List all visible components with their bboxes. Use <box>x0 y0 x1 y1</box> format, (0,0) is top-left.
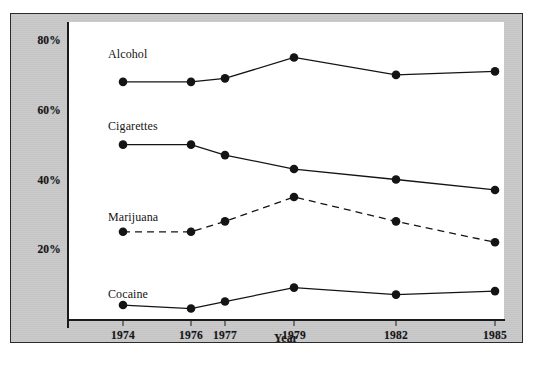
series-label-alcohol: Alcohol <box>108 47 147 62</box>
figure-caption <box>40 349 510 363</box>
data-point <box>187 78 196 87</box>
series-line-marijuana <box>123 197 495 242</box>
data-point <box>221 297 230 306</box>
data-point <box>290 283 299 292</box>
data-point <box>392 217 401 226</box>
data-point <box>119 228 128 237</box>
data-point <box>392 290 401 299</box>
data-point <box>392 71 401 80</box>
series-layer <box>68 22 504 319</box>
data-point <box>290 53 299 62</box>
data-point <box>119 140 128 149</box>
data-point <box>392 175 401 184</box>
y-tick-label: 60% <box>37 104 61 116</box>
data-point <box>221 217 230 226</box>
data-point <box>491 287 500 296</box>
data-point <box>119 301 128 310</box>
series-line-alcohol <box>123 57 495 81</box>
data-point <box>290 193 299 202</box>
y-tick-label: 40% <box>37 174 61 186</box>
figure-frame: 80%60%40%20% 197419761977197919821985 Al… <box>10 13 523 343</box>
data-point <box>187 140 196 149</box>
y-axis-line <box>67 22 69 328</box>
data-point <box>491 67 500 76</box>
data-point <box>187 304 196 313</box>
series-label-marijuana: Marijuana <box>108 210 158 225</box>
data-point <box>290 165 299 174</box>
data-point <box>491 238 500 247</box>
data-point <box>119 78 128 87</box>
x-axis-line <box>67 319 505 321</box>
x-axis-title: Year <box>68 332 504 344</box>
data-point <box>491 186 500 195</box>
series-line-cocaine <box>123 288 495 309</box>
plot-area: 80%60%40%20% 197419761977197919821985 Al… <box>68 22 504 319</box>
data-point <box>221 151 230 160</box>
data-point <box>187 228 196 237</box>
series-label-cocaine: Cocaine <box>108 287 148 302</box>
series-line-cigarettes <box>123 145 495 190</box>
y-tick-label: 80% <box>37 34 61 46</box>
series-label-cigarettes: Cigarettes <box>108 119 158 134</box>
data-point <box>221 74 230 83</box>
y-tick-label: 20% <box>37 243 61 255</box>
